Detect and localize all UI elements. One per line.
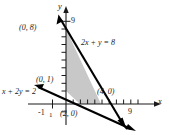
point-label-4-0: (4, 0): [97, 88, 114, 96]
equation-label-line2: x + 2y = 2: [2, 88, 36, 96]
y-axis-arrow: [63, 6, 68, 13]
equation-label-line1: 2x + y = 8: [81, 39, 115, 47]
y-axis-label: y: [58, 2, 62, 11]
point-label-0-1: (0, 1): [36, 76, 53, 84]
point-label-0-8: (0, 8): [19, 24, 36, 32]
line2-arrowhead-right: [126, 124, 137, 131]
coordinate-plot: [0, 0, 169, 135]
graph-figure: y x 9 9 -1 1 (0, 8) (0, 1) (2, 0) (4, 0)…: [0, 0, 169, 135]
tick-label-1: 1: [49, 112, 53, 119]
x-axis-label: x: [158, 97, 162, 106]
point-label-2-0: (2, 0): [60, 110, 77, 118]
x-tick-label-9: 9: [128, 108, 132, 116]
y-tick-label-9: 9: [71, 17, 75, 25]
x-tick-label-neg1: -1: [38, 109, 45, 117]
